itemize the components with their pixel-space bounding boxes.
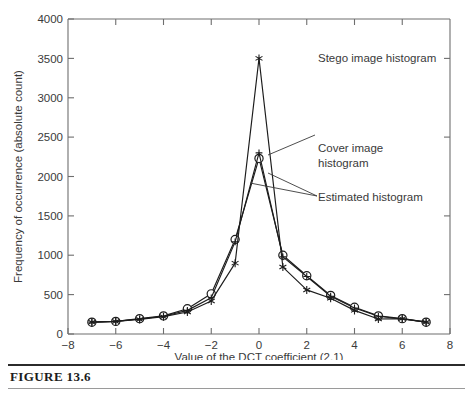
annotation-cover-line1: Cover image bbox=[318, 142, 383, 154]
x-tick-label: 0 bbox=[256, 339, 262, 351]
figure-container: 0 500 1000 1500 2000 2500 3000 3500 4000 bbox=[0, 0, 473, 396]
x-tick-label: 4 bbox=[351, 339, 358, 351]
x-axis-ticks bbox=[68, 328, 450, 334]
series-circle bbox=[88, 154, 430, 326]
marker-star bbox=[256, 54, 263, 62]
caption-rule-bottom bbox=[8, 388, 465, 389]
y-tick-label: 2000 bbox=[37, 171, 63, 183]
annotation-estimated: Estimated histogram bbox=[318, 191, 423, 203]
y-tick-label: 500 bbox=[44, 289, 63, 301]
series-line-plus bbox=[92, 153, 426, 322]
x-tick-label: −8 bbox=[61, 339, 74, 351]
y-tick-label: 2500 bbox=[37, 131, 63, 143]
figure-caption-text: FIGURE 13.6 bbox=[8, 366, 465, 388]
x-tick-label: 2 bbox=[304, 339, 310, 351]
x-tick-label: 6 bbox=[399, 339, 405, 351]
y-tick-label: 3500 bbox=[37, 53, 63, 65]
x-axis-title: Value of the DCT coefficient (2,1) bbox=[175, 351, 344, 360]
x-tick-label: −6 bbox=[109, 339, 122, 351]
annotation-leader-lines bbox=[250, 135, 317, 196]
x-tick-label: 8 bbox=[447, 339, 453, 351]
y-tick-label: 4000 bbox=[37, 13, 63, 25]
y-axis-ticks bbox=[68, 19, 74, 334]
x-tick-label: −2 bbox=[205, 339, 218, 351]
x-tick-label: −4 bbox=[157, 339, 171, 351]
series-line-circle bbox=[92, 158, 426, 322]
right-axis-ticks bbox=[444, 58, 450, 294]
y-tick-label: 1000 bbox=[37, 249, 63, 261]
annotation-cover-line2: histogram bbox=[318, 157, 369, 169]
y-tick-label: 1500 bbox=[37, 210, 63, 222]
x-axis-ticks-top bbox=[116, 19, 403, 25]
y-axis-tick-labels: 0 500 1000 1500 2000 2500 3000 3500 4000 bbox=[37, 13, 63, 340]
figure-caption-block: FIGURE 13.6 bbox=[8, 364, 465, 389]
y-tick-label: 3000 bbox=[37, 92, 63, 104]
x-axis-tick-labels: −8 −6 −4 −2 0 2 4 6 8 bbox=[61, 339, 453, 351]
y-axis-title: Frequency of occurrence (absolute count) bbox=[12, 70, 24, 283]
series-plus bbox=[88, 149, 429, 325]
annotation-stego: Stego image histogram bbox=[318, 52, 436, 64]
plot-frame bbox=[68, 19, 450, 334]
dct-histogram-chart: 0 500 1000 1500 2000 2500 3000 3500 4000 bbox=[0, 0, 473, 360]
